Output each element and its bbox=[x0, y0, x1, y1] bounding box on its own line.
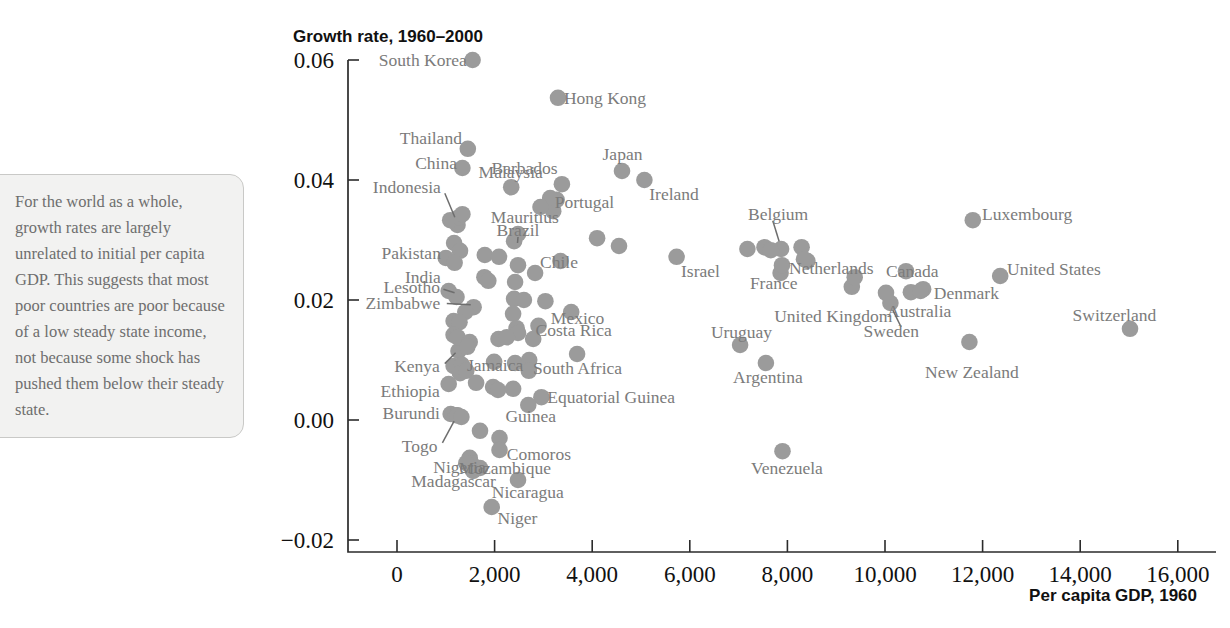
y-tick-label: 0.06 bbox=[294, 48, 334, 73]
point-label: Costa Rica bbox=[536, 320, 613, 340]
point-label: Niger bbox=[498, 508, 538, 528]
point-label: Burundi bbox=[383, 403, 441, 423]
point-label: Sweden bbox=[864, 321, 920, 341]
point-label: Netherlands bbox=[789, 258, 874, 278]
point-label: Indonesia bbox=[373, 177, 441, 197]
data-point bbox=[460, 141, 477, 158]
x-tick-label: 12,000 bbox=[951, 562, 1014, 587]
x-tick-label: 16,000 bbox=[1146, 562, 1209, 587]
point-label: United States bbox=[1007, 259, 1101, 279]
data-point-unlabeled bbox=[537, 293, 554, 310]
data-point-unlabeled bbox=[490, 382, 507, 399]
point-label: Togo bbox=[402, 436, 438, 456]
data-point bbox=[965, 212, 982, 229]
point-label: Chile bbox=[540, 252, 578, 272]
x-tick-label: 2,000 bbox=[469, 562, 521, 587]
label-leader-line bbox=[442, 421, 454, 443]
data-point-unlabeled bbox=[446, 254, 463, 271]
data-point-unlabeled bbox=[505, 306, 522, 323]
data-point-unlabeled bbox=[459, 339, 476, 356]
point-label: Thailand bbox=[400, 128, 462, 148]
point-label: China bbox=[415, 153, 457, 173]
data-point-unlabeled bbox=[491, 248, 508, 265]
point-label: Pakistan bbox=[382, 243, 442, 263]
point-label: Guinea bbox=[505, 406, 556, 426]
x-tick-label: 10,000 bbox=[853, 562, 916, 587]
y-tick-label: −0.02 bbox=[281, 528, 334, 553]
data-point-unlabeled bbox=[477, 247, 494, 264]
data-point-unlabeled bbox=[505, 381, 522, 398]
point-label: Ethiopia bbox=[381, 381, 441, 401]
data-point-unlabeled bbox=[453, 409, 470, 426]
point-label: Belgium bbox=[748, 204, 809, 224]
data-point bbox=[774, 443, 791, 460]
x-axis-title: Per capita GDP, 1960 bbox=[1029, 586, 1197, 605]
y-tick-label: 0.00 bbox=[294, 408, 334, 433]
data-point-unlabeled bbox=[878, 285, 895, 302]
point-label: Luxembourg bbox=[982, 204, 1072, 224]
point-label: Argentina bbox=[733, 367, 803, 387]
data-point-unlabeled bbox=[454, 206, 471, 223]
point-label: Israel bbox=[681, 261, 720, 281]
x-tick-label: 4,000 bbox=[566, 562, 618, 587]
plot-svg: −0.020.000.020.040.0602,0004,0006,0008,0… bbox=[0, 0, 1230, 628]
point-label: Equatorial Guinea bbox=[547, 387, 675, 407]
point-label: New Zealand bbox=[925, 362, 1019, 382]
figure-root: For the world as a whole, growth rates a… bbox=[0, 0, 1230, 628]
point-label: Hong Kong bbox=[564, 88, 646, 108]
data-point-unlabeled bbox=[507, 274, 524, 291]
data-point-unlabeled bbox=[912, 283, 929, 300]
data-point-unlabeled bbox=[739, 241, 756, 258]
x-tick-label: 8,000 bbox=[762, 562, 814, 587]
point-label: Uruguay bbox=[711, 322, 772, 342]
point-label: Venezuela bbox=[751, 458, 823, 478]
y-tick-label: 0.04 bbox=[294, 168, 335, 193]
data-point-unlabeled bbox=[516, 292, 533, 309]
point-label: South Korea bbox=[379, 50, 467, 70]
point-label: Ireland bbox=[649, 184, 699, 204]
data-point-unlabeled bbox=[510, 257, 527, 274]
point-label: Jamaica bbox=[467, 355, 524, 375]
x-tick-label: 14,000 bbox=[1049, 562, 1112, 587]
data-point-unlabeled bbox=[499, 329, 516, 346]
data-point bbox=[614, 163, 631, 180]
point-label: Nicaragua bbox=[492, 482, 564, 502]
point-labels-group: South KoreaHong KongThailandChinaMalaysi… bbox=[366, 50, 1157, 528]
data-point-unlabeled bbox=[774, 257, 791, 274]
data-point-unlabeled bbox=[491, 442, 508, 459]
data-point-unlabeled bbox=[472, 423, 489, 440]
scatter-plot: −0.020.000.020.040.0602,0004,0006,0008,0… bbox=[0, 0, 1230, 628]
y-axis-title: Growth rate, 1960–2000 bbox=[293, 27, 483, 46]
point-label: France bbox=[750, 273, 798, 293]
point-label: Kenya bbox=[394, 356, 440, 376]
y-tick-label: 0.02 bbox=[294, 288, 334, 313]
data-point-unlabeled bbox=[589, 230, 606, 247]
point-label: Barbados bbox=[491, 158, 557, 178]
point-label: Switzerland bbox=[1073, 305, 1157, 325]
point-label: Canada bbox=[886, 261, 939, 281]
point-label: Japan bbox=[603, 144, 643, 164]
data-point-unlabeled bbox=[763, 242, 780, 259]
data-point-unlabeled bbox=[468, 375, 485, 392]
data-point-unlabeled bbox=[480, 273, 497, 290]
point-label: South Africa bbox=[533, 358, 622, 378]
data-point bbox=[554, 176, 571, 193]
point-label: Zimbabwe bbox=[366, 293, 441, 313]
point-label: Brazil bbox=[497, 220, 540, 240]
data-point bbox=[961, 334, 978, 351]
x-tick-label: 0 bbox=[391, 562, 403, 587]
point-label: Portugal bbox=[555, 192, 614, 212]
data-point-unlabeled bbox=[611, 238, 628, 255]
point-label: Madagascar bbox=[411, 471, 496, 491]
data-point bbox=[992, 268, 1009, 285]
x-tick-label: 6,000 bbox=[664, 562, 716, 587]
